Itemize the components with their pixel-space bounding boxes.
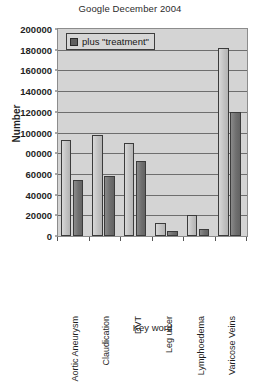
- y-tick-label: 200000: [2, 24, 52, 35]
- x-tick-mark: [57, 237, 58, 241]
- x-tick-mark: [89, 237, 90, 241]
- bar: [167, 231, 178, 236]
- y-tick-label: 180000: [2, 44, 52, 55]
- y-tick-label: 00000: [2, 148, 52, 159]
- bar: [187, 215, 198, 236]
- y-tick-label: 120000: [2, 106, 52, 117]
- y-tick-label: 100000: [2, 127, 52, 138]
- bar: [124, 143, 135, 236]
- chart-legend: plus "treatment": [66, 33, 155, 50]
- bar: [230, 112, 241, 236]
- y-axis-tick-labels: 2000001800001600001400001200001000000000…: [2, 28, 52, 237]
- plot-area: plus "treatment": [57, 28, 248, 237]
- x-tick-mark: [152, 237, 153, 241]
- bar: [92, 135, 103, 236]
- x-axis-title: Key word: [57, 322, 248, 333]
- legend-label: plus "treatment": [82, 36, 149, 47]
- x-tick-mark: [215, 237, 216, 241]
- bar-group: [155, 29, 178, 236]
- y-tick-label: 60000: [2, 168, 52, 179]
- bar: [104, 176, 115, 236]
- bar: [61, 140, 72, 236]
- bar: [136, 161, 147, 236]
- bar: [199, 229, 210, 236]
- bar-group: [187, 29, 210, 236]
- bars-layer: [58, 29, 247, 236]
- x-axis-tick-labels: Aortic AneurysmClaudicationDVTLeg ulcerL…: [57, 242, 248, 318]
- bar: [218, 48, 229, 236]
- bar-group: [61, 29, 84, 236]
- y-tick-label: 160000: [2, 65, 52, 76]
- y-tick-label: 40000: [2, 189, 52, 200]
- chart-title: Google December 2004: [0, 3, 260, 14]
- y-tick-label: 0: [2, 231, 52, 242]
- x-tick-mark: [246, 237, 247, 241]
- bar: [155, 223, 166, 236]
- bar-group: [218, 29, 241, 236]
- x-tick-mark: [183, 237, 184, 241]
- bar-group: [92, 29, 115, 236]
- y-tick-label: 20000: [2, 210, 52, 221]
- y-tick-label: 140000: [2, 86, 52, 97]
- bar-group: [124, 29, 147, 236]
- x-tick-mark: [120, 237, 121, 241]
- bar: [73, 180, 84, 236]
- legend-swatch-icon: [70, 38, 78, 46]
